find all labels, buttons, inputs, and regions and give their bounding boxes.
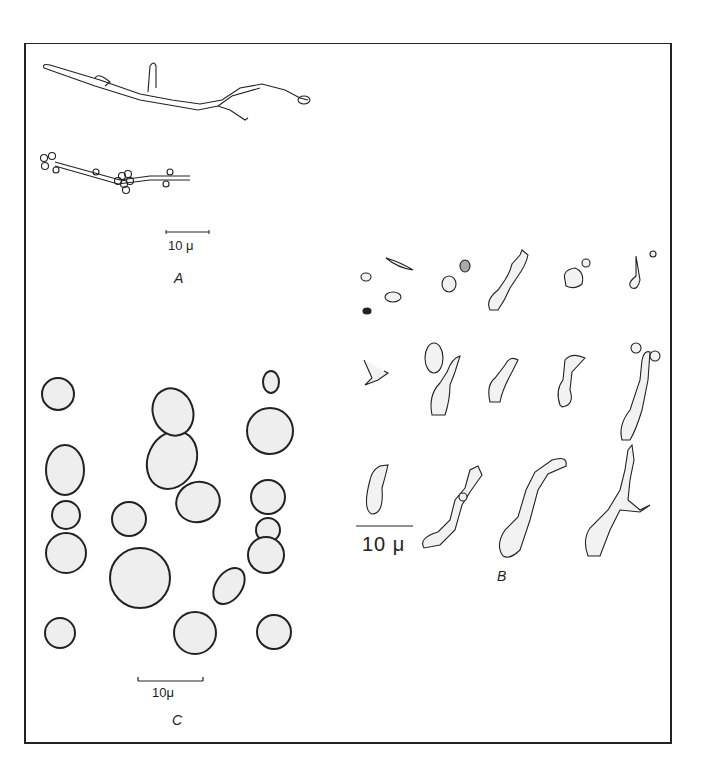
panel-b-row-2 (364, 343, 660, 440)
panel-b-row-3 (366, 445, 650, 557)
panel-label-a: A (174, 270, 183, 286)
panel-label-b: B (497, 568, 506, 584)
scale-label-a: 10 μ (168, 238, 194, 253)
scale-bar-c (138, 677, 203, 681)
scale-label-b: 10 μ (362, 533, 405, 556)
figure-illustration (0, 0, 709, 779)
scale-label-c: 10μ (152, 685, 174, 700)
panel-c-cells (42, 371, 293, 654)
panel-a-hypha-2 (41, 153, 191, 194)
scale-bar-a (166, 230, 209, 234)
panel-b-row-1 (361, 250, 656, 314)
panel-a-hypha-1 (44, 63, 310, 120)
panel-label-c: C (172, 712, 182, 728)
